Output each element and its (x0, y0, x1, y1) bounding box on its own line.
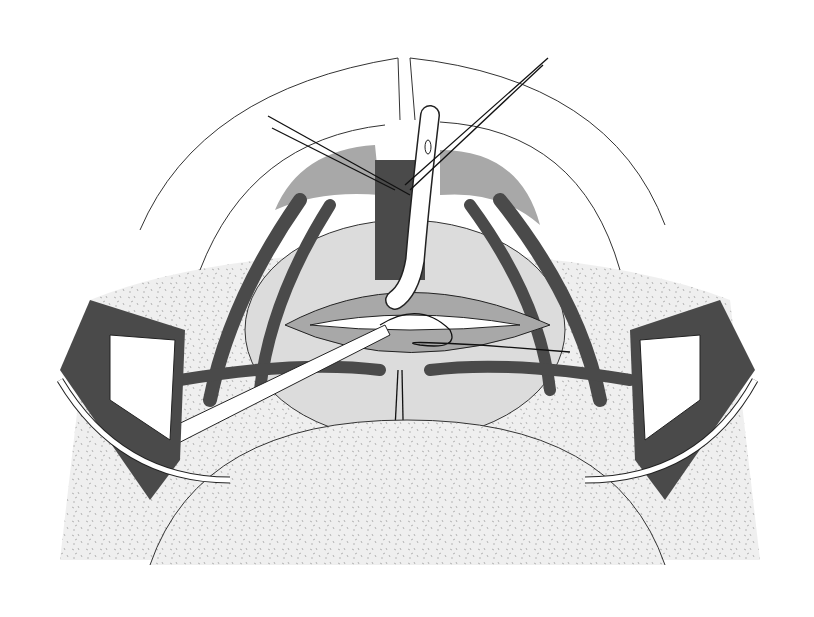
outer-arc-left (140, 58, 400, 230)
fascia-right (440, 150, 540, 225)
surgical-illustration (0, 0, 814, 617)
outer-arc-right (410, 58, 665, 225)
